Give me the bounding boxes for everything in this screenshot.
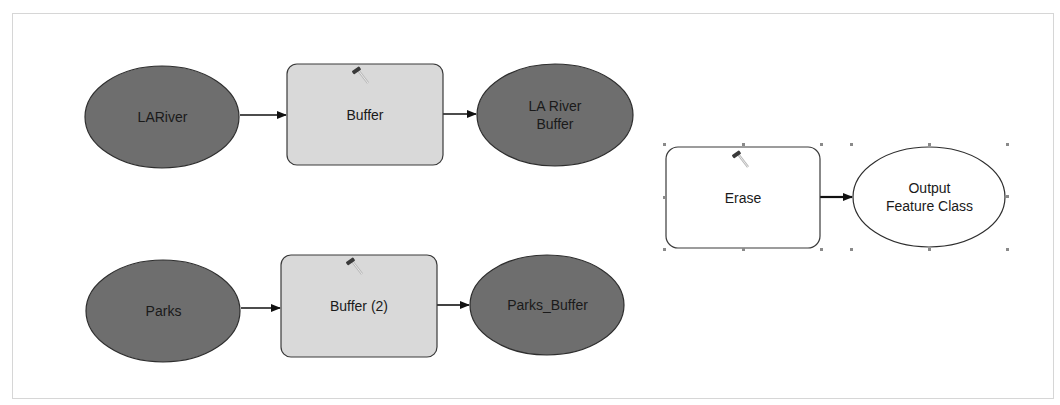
node-parks-label: Parks xyxy=(86,260,241,362)
node-lariver-buffer-label: LA River Buffer xyxy=(477,64,633,166)
node-output-feature-class-label: Output Feature Class xyxy=(853,147,1006,247)
node-erase-label: Erase xyxy=(666,147,820,248)
node-parks-buffer-label: Parks_Buffer xyxy=(470,254,625,355)
node-lariver-label: LARiver xyxy=(85,66,240,168)
node-buffer-label: Buffer xyxy=(287,64,443,165)
node-buffer-2-label: Buffer (2) xyxy=(281,255,437,357)
